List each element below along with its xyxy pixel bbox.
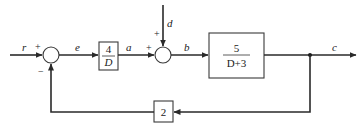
signal-d-label: d: [167, 17, 173, 29]
sum1-plus-sign: +: [35, 41, 41, 52]
summing-junction-2: [155, 47, 171, 63]
signal-b-label: b: [184, 41, 190, 53]
signal-c-label: c: [332, 41, 337, 53]
signal-e-label: e: [75, 41, 80, 53]
sum2-plus-sign-a: +: [146, 42, 152, 53]
controller-numerator: 4: [106, 43, 112, 55]
sum1-minus-sign: −: [38, 66, 44, 77]
controller-block: 4 D: [99, 42, 118, 70]
summing-junction-1: [43, 47, 59, 63]
controller-denominator: D: [104, 56, 113, 68]
feedback-gain-value: 2: [161, 106, 167, 118]
feedback-wire-out: [51, 64, 154, 112]
plant-numerator: 5: [234, 42, 240, 54]
plant-block: 5 D+3: [209, 33, 264, 78]
signal-r-label: r: [22, 41, 27, 53]
feedback-gain-block: 2: [154, 101, 173, 122]
sum2-plus-sign-d: +: [154, 28, 160, 39]
signal-a-label: a: [126, 41, 132, 53]
plant-denominator: D+3: [227, 57, 247, 69]
block-diagram: r + − e 4 D a + d + b 5 D+3 c 2: [0, 0, 364, 131]
